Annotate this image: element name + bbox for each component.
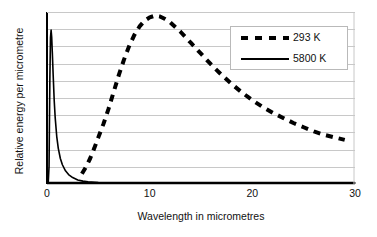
- y-axis-label: Relative energy per micrometre: [13, 11, 29, 191]
- legend-swatch-solid-line: [239, 48, 291, 70]
- legend-label-293k: 293 K: [293, 31, 320, 43]
- blackbody-spectrum-chart: Relative energy per micrometre 0102030 W…: [0, 0, 377, 237]
- legend-entry-5800k[interactable]: 5800 K: [231, 48, 349, 70]
- legend-entry-293k[interactable]: 293 K: [231, 27, 349, 49]
- x-axis-label: Wavelength in micrometres: [47, 210, 355, 222]
- x-tick-label: 10: [135, 187, 165, 199]
- legend-swatch-dashed-line: [239, 27, 291, 49]
- x-tick-label: 20: [237, 187, 267, 199]
- x-tick-label: 30: [340, 187, 370, 199]
- legend-label-5800k: 5800 K: [293, 52, 326, 64]
- x-axis-ticks: 0102030: [0, 187, 377, 203]
- legend: 293 K 5800 K: [230, 26, 348, 70]
- x-tick-label: 0: [32, 187, 62, 199]
